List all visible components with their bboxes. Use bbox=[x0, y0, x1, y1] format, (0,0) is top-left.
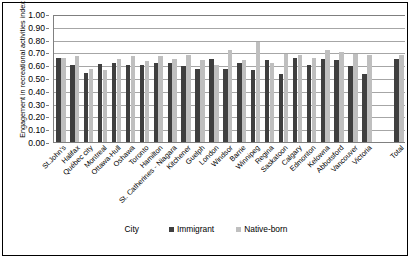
bar-group bbox=[291, 15, 305, 142]
y-axis-tick-mark bbox=[46, 15, 49, 16]
x-axis-category-labels: St.John'sHalifaxQuébec cityMontrealOttaw… bbox=[53, 144, 405, 214]
y-axis-tick-mark bbox=[46, 28, 49, 29]
bars-layer bbox=[54, 15, 405, 142]
bar-immigrant bbox=[279, 74, 283, 142]
legend-swatch-icon bbox=[236, 227, 241, 232]
y-axis-tick-mark bbox=[46, 41, 49, 42]
bar-native-born bbox=[145, 61, 149, 142]
bar-immigrant bbox=[348, 66, 352, 142]
bar-immigrant bbox=[293, 58, 297, 142]
bar-native-born bbox=[399, 55, 403, 142]
y-axis-tick-label: 0.50 bbox=[28, 75, 45, 83]
bar-immigrant bbox=[251, 70, 255, 142]
bar-immigrant bbox=[70, 65, 74, 142]
y-axis-tick-label: 0.70 bbox=[28, 49, 45, 57]
bar-native-born bbox=[117, 59, 121, 142]
bar-native-born bbox=[325, 50, 329, 142]
bar-native-born bbox=[172, 59, 176, 142]
y-axis-tick-mark bbox=[46, 92, 49, 93]
y-axis-tick-mark bbox=[46, 66, 49, 67]
legend-swatch-icon bbox=[169, 227, 174, 232]
bar-group bbox=[96, 15, 110, 142]
bar-group bbox=[54, 15, 68, 142]
legend-item[interactable]: Immigrant bbox=[169, 224, 214, 234]
bar-group bbox=[318, 15, 332, 142]
bar-immigrant bbox=[394, 59, 398, 142]
bar-immigrant bbox=[98, 64, 102, 142]
y-axis-tick-mark bbox=[46, 130, 49, 131]
y-axis-tick-mark bbox=[46, 53, 49, 54]
bar-group bbox=[124, 15, 138, 142]
bar-native-born bbox=[228, 50, 232, 142]
bar-native-born bbox=[131, 56, 135, 142]
bar-group bbox=[332, 15, 346, 142]
bar-group bbox=[179, 15, 193, 142]
bar-immigrant bbox=[334, 60, 338, 142]
bar-native-born bbox=[367, 55, 371, 142]
y-axis-tick-mark bbox=[46, 117, 49, 118]
bar-group bbox=[249, 15, 263, 142]
bar-native-born bbox=[61, 58, 65, 142]
y-axis-tick-label: 0.60 bbox=[28, 62, 45, 70]
legend-label: Native-born bbox=[244, 224, 287, 234]
bar-native-born bbox=[186, 55, 190, 142]
bar-group bbox=[277, 15, 291, 142]
bar-group bbox=[360, 15, 374, 142]
bar-native-born bbox=[75, 56, 79, 142]
bar-immigrant bbox=[154, 63, 158, 142]
bar-native-born bbox=[339, 52, 343, 142]
bar-group bbox=[151, 15, 165, 142]
bar-native-born bbox=[284, 54, 288, 142]
bar-native-born bbox=[256, 42, 260, 142]
bar-immigrant bbox=[237, 63, 241, 142]
x-axis-label: Total bbox=[389, 144, 406, 161]
bar-native-born bbox=[89, 69, 93, 142]
chart-screenshot: Engagement in recreational activities in… bbox=[0, 0, 410, 258]
bar-group bbox=[110, 15, 124, 142]
bar-group bbox=[346, 15, 360, 142]
bar-immigrant bbox=[56, 58, 60, 142]
bar-immigrant bbox=[112, 63, 116, 142]
bar-immigrant bbox=[181, 66, 185, 142]
chart-legend: City ImmigrantNative-born bbox=[3, 219, 409, 239]
y-axis-tick-label: 0.40 bbox=[28, 88, 45, 96]
chart-frame: Engagement in recreational activities in… bbox=[2, 2, 408, 256]
y-axis-tick-label: 0.20 bbox=[28, 113, 45, 121]
bar-native-born bbox=[312, 58, 316, 142]
bar-group bbox=[68, 15, 82, 142]
bar-group bbox=[304, 15, 318, 142]
y-axis-tick-mark bbox=[46, 105, 49, 106]
y-axis-tick-mark bbox=[46, 79, 49, 80]
legend-item[interactable]: Native-born bbox=[236, 224, 287, 234]
y-axis-tick-label: 0.80 bbox=[28, 37, 45, 45]
plot-area bbox=[53, 15, 405, 143]
y-axis-tick-label: 1.00 bbox=[28, 11, 45, 19]
legend-label: Immigrant bbox=[177, 224, 214, 234]
bar-native-born bbox=[158, 56, 162, 142]
bar-immigrant bbox=[307, 65, 311, 142]
y-axis-tick-label: 0.30 bbox=[28, 101, 45, 109]
bar-group bbox=[165, 15, 179, 142]
bar-group bbox=[207, 15, 221, 142]
bar-immigrant bbox=[84, 73, 88, 142]
y-axis-tick-label: 0.00 bbox=[28, 139, 45, 147]
bar-immigrant bbox=[209, 59, 213, 142]
bar-immigrant bbox=[126, 65, 130, 142]
x-axis-title: City bbox=[125, 224, 139, 234]
bar-group bbox=[263, 15, 277, 142]
bar-immigrant bbox=[140, 65, 144, 142]
y-axis-tick-label: 0.10 bbox=[28, 126, 45, 134]
bar-native-born bbox=[103, 70, 107, 142]
bar-native-born bbox=[353, 54, 357, 142]
bar-immigrant bbox=[362, 74, 366, 142]
bar-native-born bbox=[214, 65, 218, 142]
bar-group bbox=[221, 15, 235, 142]
bar-immigrant bbox=[265, 60, 269, 142]
bar-group bbox=[137, 15, 151, 142]
bar-native-born bbox=[200, 60, 204, 142]
bar-immigrant bbox=[168, 63, 172, 142]
bar-group bbox=[392, 15, 406, 142]
bar-group bbox=[193, 15, 207, 142]
bar-group bbox=[235, 15, 249, 142]
bar-immigrant bbox=[223, 69, 227, 142]
